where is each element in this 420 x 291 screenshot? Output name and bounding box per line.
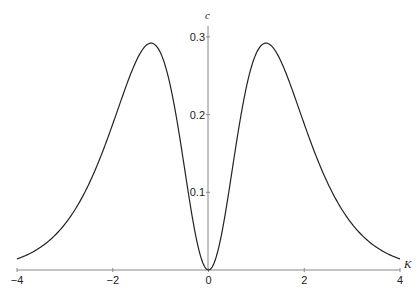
y-axis-label: c [205,9,210,21]
x-tick-label: −2 [106,274,119,286]
x-tick-label: 0 [205,274,211,286]
y-tick-label: 0.2 [190,109,205,121]
chart: −4−2024 K 0.10.20.3 c [0,0,420,291]
x-axis: −4−2024 K [11,258,412,286]
y-tick-label: 0.3 [190,31,205,43]
y-axis: 0.10.20.3 c [190,9,210,270]
x-tick-label: 4 [397,274,403,286]
y-tick-label: 0.1 [190,186,205,198]
x-tick-label: 2 [301,274,307,286]
x-axis-label: K [403,258,412,270]
x-tick-label: −4 [11,274,24,286]
